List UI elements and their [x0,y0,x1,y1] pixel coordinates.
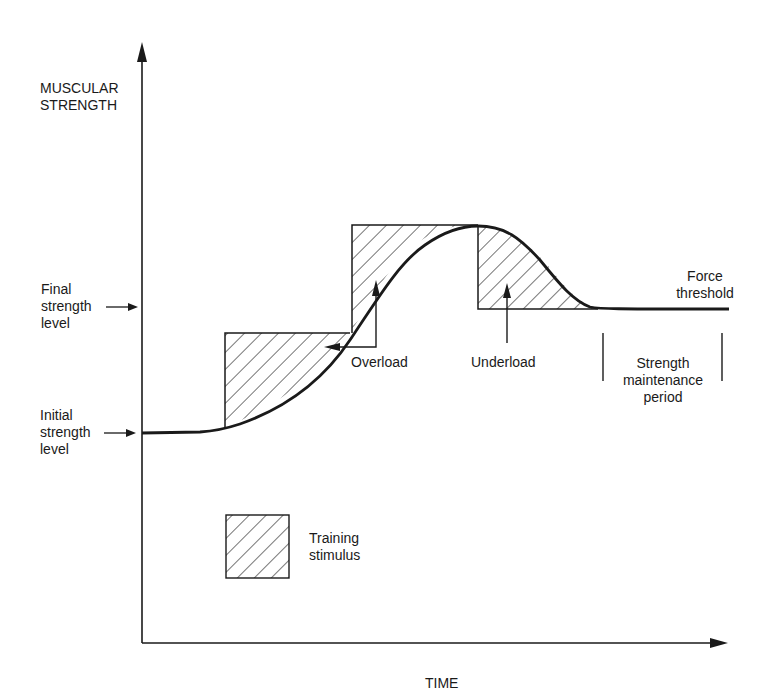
y-axis-label: MUSCULAR STRENGTH [40,80,119,114]
initial-level-arrow [104,429,136,437]
y-axis-label-line: STRENGTH [40,97,119,114]
force-threshold-label: Force threshold [650,268,760,302]
y-axis [137,42,147,643]
initial-level-label: Initial strength level [40,407,91,458]
maintenance-label-line: Strength [607,355,719,372]
force-threshold-line: threshold [650,285,760,302]
maintenance-label-line: maintenance [607,372,719,389]
final-level-label-line: Final [41,281,92,298]
initial-level-label-line: Initial [40,407,91,424]
legend-hatch-swatch [226,515,289,578]
x-axis [142,638,728,648]
force-threshold-line: Force [650,268,760,285]
final-level-label: Final strength level [41,281,92,332]
underload-region [478,226,598,309]
legend-label-line: stimulus [309,547,360,564]
underload-label: Underload [471,354,536,371]
maintenance-period-label: Strength maintenance period [607,355,719,406]
overload-label: Overload [351,354,408,371]
initial-level-label-line: strength [40,424,91,441]
maintenance-label-line: period [607,389,719,406]
legend-label: Training stimulus [309,530,360,564]
training-stimulus-2 [352,225,478,333]
x-axis-label: TIME [425,675,458,692]
legend-label-line: Training [309,530,360,547]
final-level-label-line: level [41,315,92,332]
y-axis-label-line: MUSCULAR [40,80,119,97]
initial-level-label-line: level [40,441,91,458]
final-level-label-line: strength [41,298,92,315]
final-level-arrow [106,303,138,311]
